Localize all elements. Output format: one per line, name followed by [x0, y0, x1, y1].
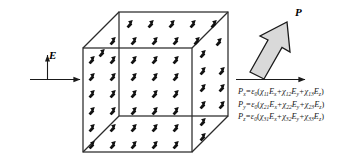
- polarization-block-arrow: [250, 22, 290, 79]
- equation-row: Pz=ε0(χ31Ex+χ32Ey+χ33Ez): [238, 111, 356, 124]
- polarization-label: P: [295, 7, 302, 18]
- polarization-figure: E P Px=ε0(χ11Ex+χ12Ey+χ13Ez) Py=ε0(χ21Ex…: [0, 0, 357, 165]
- equation-row: Px=ε0(χ11Ex+χ12Ey+χ13Ez): [238, 86, 356, 99]
- dipole-arrows-side-face: [200, 39, 224, 141]
- figure-graphics: [0, 0, 357, 165]
- dielectric-cube: [83, 12, 228, 152]
- dipole-arrows-top-face: [99, 21, 216, 57]
- e-field-label: E: [49, 50, 56, 61]
- dipole-arrows-front-face: [89, 57, 178, 149]
- susceptibility-equations: Px=ε0(χ11Ex+χ12Ey+χ13Ez) Py=ε0(χ21Ex+χ22…: [238, 86, 356, 124]
- cube-edge-bottom-right: [192, 116, 228, 152]
- equation-row: Py=ε0(χ21Ex+χ22Ey+χ23Ez): [238, 99, 356, 112]
